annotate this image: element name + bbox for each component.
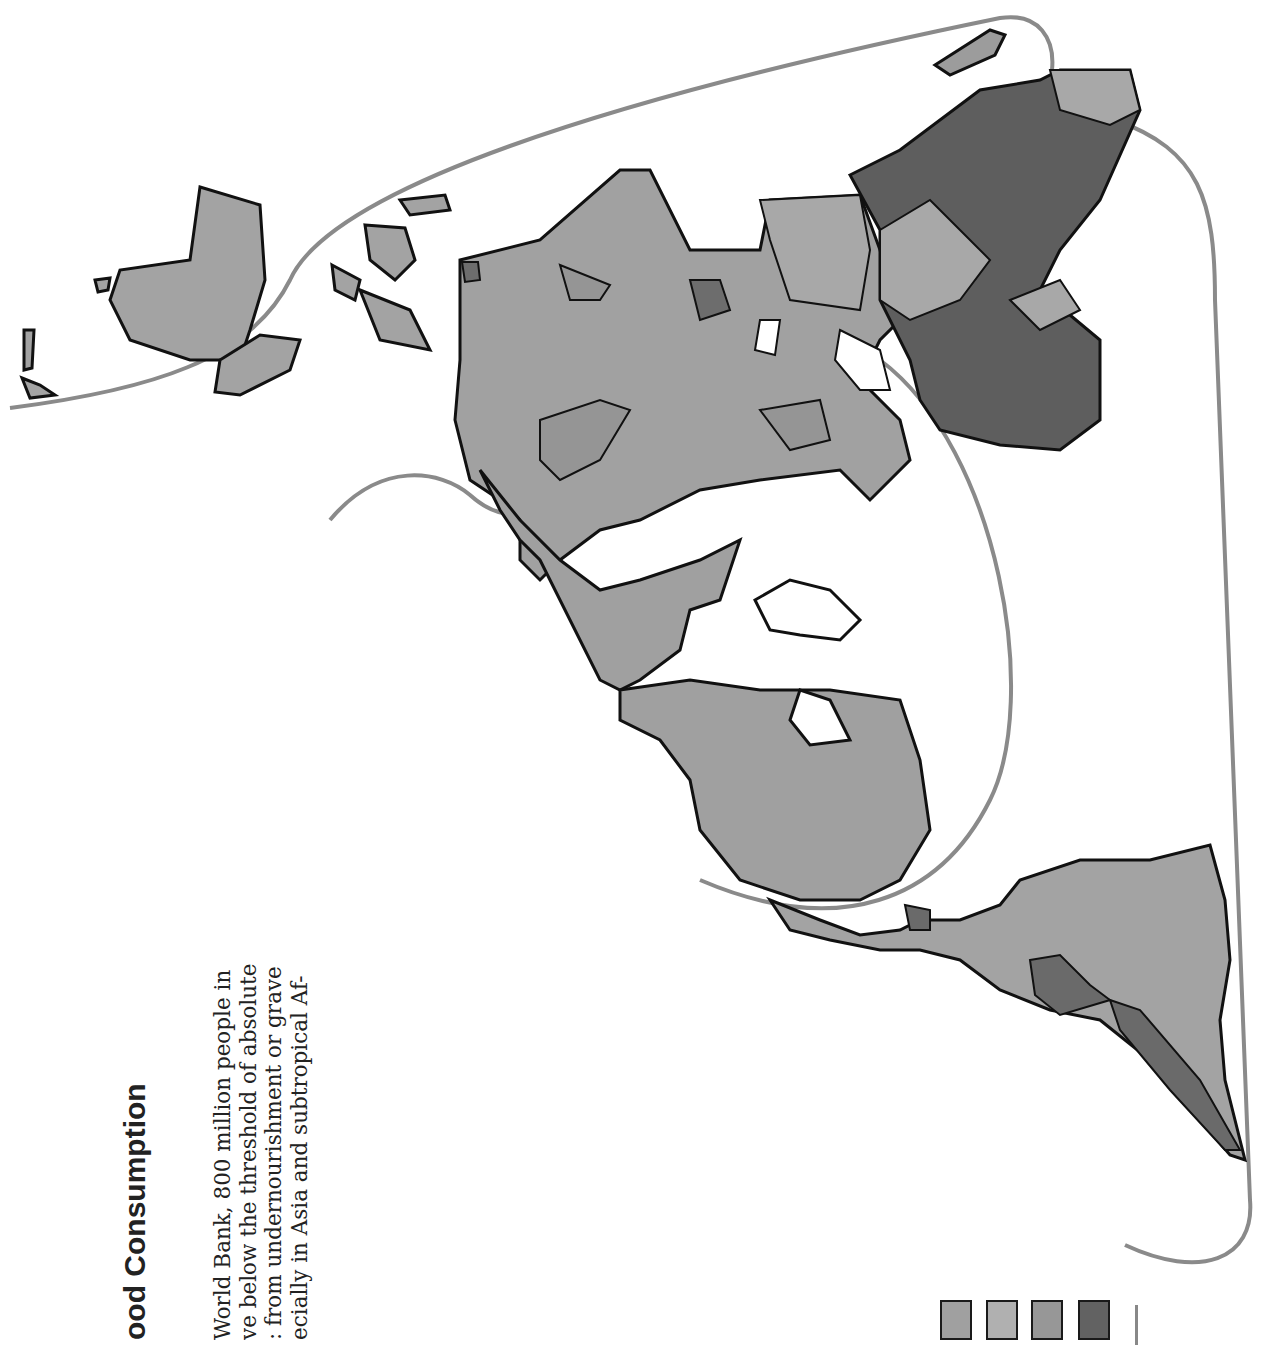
- region-australia: [22, 187, 300, 398]
- page-title: ood Consumption: [118, 1083, 152, 1340]
- region-madagascar: [935, 30, 1005, 75]
- body-paragraph: World Bank, 800 million people in ve bel…: [210, 964, 312, 1340]
- legend-swatch: [986, 1300, 1018, 1340]
- body-line: ve below the threshold of absolute: [236, 964, 262, 1340]
- body-line: ecially in Asia and subtropical Af-: [287, 964, 313, 1340]
- body-line: World Bank, 800 million people in: [210, 964, 236, 1340]
- legend-swatch: [1078, 1300, 1110, 1340]
- legend-divider: [1135, 1305, 1138, 1345]
- legend-swatch: [1031, 1300, 1063, 1340]
- legend-swatch: [940, 1300, 972, 1340]
- body-line: : from undernourishment or grave: [261, 964, 287, 1340]
